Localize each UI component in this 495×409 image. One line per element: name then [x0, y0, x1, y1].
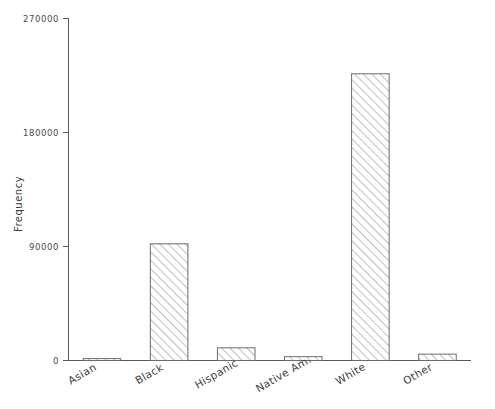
chart-canvas: 270000 180000 90000 0 Frequency AsianBla… — [0, 0, 495, 409]
bar-hispanic — [217, 348, 255, 361]
x-tick-label-hispanic: Hispanic — [192, 356, 240, 390]
y-tick-label-90000: 90000 — [29, 242, 59, 252]
bar-white — [352, 74, 390, 361]
bars-layer — [83, 74, 456, 361]
y-tick-label-180000: 180000 — [23, 128, 59, 138]
bar-other — [419, 354, 457, 360]
bar-black — [150, 244, 188, 361]
x-tick-label-asian: Asian — [66, 361, 99, 387]
bar-asian — [83, 359, 121, 361]
y-tick-label-0: 0 — [53, 356, 59, 366]
bar-chart-figure: 270000 180000 90000 0 Frequency AsianBla… — [0, 0, 495, 409]
x-tick-label-native-am: Native Am. — [253, 353, 313, 394]
y-tick-label-270000: 270000 — [23, 14, 59, 24]
y-axis: 270000 180000 90000 0 Frequency — [13, 14, 69, 367]
x-tick-label-other: Other — [401, 360, 435, 386]
y-axis-title: Frequency — [13, 176, 24, 232]
x-tick-label-white: White — [333, 360, 367, 387]
x-tick-label-black: Black — [133, 360, 166, 386]
